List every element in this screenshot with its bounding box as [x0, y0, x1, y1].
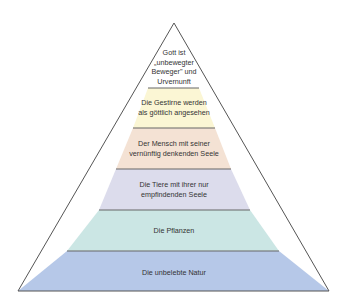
label-line: empfindenden Seele	[109, 190, 239, 200]
label-line: Die unbelebte Natur	[109, 268, 239, 278]
label-line: als göttlich angesehen	[124, 108, 224, 118]
layer-2-label: Die Gestirne werden als göttlich angeseh…	[124, 98, 224, 117]
label-line: „unbewegter	[140, 58, 208, 68]
layer-5-label: Die Pflanzen	[109, 226, 239, 236]
label-line: Die Tiere mit ihrer nur	[109, 180, 239, 190]
label-line: Beweger" und	[140, 67, 208, 77]
layer-4-label: Die Tiere mit ihrer nur empfindenden See…	[109, 180, 239, 199]
layer-6-label: Die unbelebte Natur	[109, 268, 239, 278]
layer-3-label: Der Mensch mit seiner vernünftig denkend…	[109, 139, 239, 158]
label-line: Der Mensch mit seiner	[109, 139, 239, 149]
layer-1-label: Gott ist „unbewegter Beweger" und Urvern…	[140, 48, 208, 86]
label-line: Gott ist	[140, 48, 208, 58]
label-line: Urvernunft	[140, 77, 208, 87]
label-line: vernünftig denkenden Seele	[109, 149, 239, 159]
label-line: Die Gestirne werden	[124, 98, 224, 108]
label-line: Die Pflanzen	[109, 226, 239, 236]
